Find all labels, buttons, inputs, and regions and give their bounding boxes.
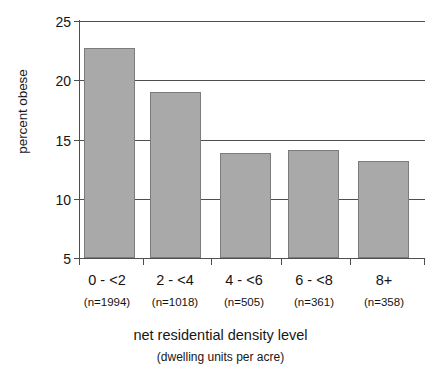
x-category-1: 2 - <4 (n=1018): [142, 273, 208, 308]
y-axis-title: percent obese: [15, 47, 30, 177]
bar-0: [84, 48, 135, 258]
bar-chart-figure: percent obese 25 20 15 10 5 0 - <2 (n=19…: [0, 0, 441, 378]
x-axis-subtitle: (dwelling units per acre): [0, 350, 441, 364]
x-axis-title: net residential density level: [0, 327, 441, 343]
x-tick-1: [143, 259, 144, 265]
x-category-label-3: 6 - <8: [281, 273, 347, 288]
y-tick-label-15: 15: [45, 134, 71, 148]
x-category-label-1: 2 - <4: [142, 273, 208, 288]
gridline-25: [79, 21, 425, 22]
x-category-0: 0 - <2 (n=1994): [74, 273, 140, 308]
y-tick-label-5: 5: [45, 252, 71, 266]
x-category-2: 4 - <6 (n=505): [211, 273, 277, 308]
y-tick-mark-10: [74, 199, 79, 200]
x-category-n-2: (n=505): [211, 297, 277, 309]
x-tick-0: [79, 259, 80, 265]
y-tick-mark-25: [74, 21, 79, 22]
x-category-n-4: (n=358): [351, 297, 417, 309]
plot-area: [79, 21, 425, 258]
bar-2: [220, 153, 271, 259]
bar-4: [358, 161, 409, 258]
x-tick-5: [424, 259, 425, 265]
x-category-n-1: (n=1018): [142, 297, 208, 309]
x-category-label-0: 0 - <2: [74, 273, 140, 288]
y-tick-mark-15: [74, 140, 79, 141]
x-category-n-0: (n=1994): [74, 297, 140, 309]
bar-1: [150, 92, 201, 258]
y-tick-label-25: 25: [45, 15, 71, 29]
x-category-label-2: 4 - <6: [211, 273, 277, 288]
x-category-3: 6 - <8 (n=361): [281, 273, 347, 308]
x-tick-3: [281, 259, 282, 265]
gridline-5-baseline: [79, 258, 425, 259]
x-tick-4: [350, 259, 351, 265]
x-tick-2: [211, 259, 212, 265]
bar-3: [288, 150, 339, 258]
x-category-4: 8+ (n=358): [351, 273, 417, 308]
x-category-label-4: 8+: [351, 273, 417, 288]
y-tick-label-10: 10: [45, 193, 71, 207]
y-tick-label-20: 20: [45, 74, 71, 88]
x-category-n-3: (n=361): [281, 297, 347, 309]
y-tick-mark-20: [74, 80, 79, 81]
